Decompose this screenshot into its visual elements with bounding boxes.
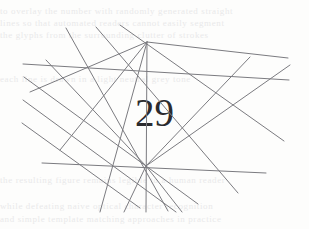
overlay-line [24,77,198,204]
overlay-line [146,57,250,166]
overlay-line [120,25,284,141]
overlay-line [46,60,146,166]
overlay-line-group [22,25,290,212]
overlay-line [100,42,147,212]
overlay-line [146,166,182,212]
overlay-line [147,42,288,58]
overlay-line [146,42,147,212]
overlay-line [146,65,290,166]
captcha-line-overlay [0,0,309,229]
overlay-line [30,42,147,92]
overlay-line [66,28,168,211]
overlay-line [124,166,146,212]
overlay-line [60,42,147,150]
captcha-image[interactable]: to overlay the number with randomly gene… [0,0,309,229]
overlay-line [22,123,140,208]
